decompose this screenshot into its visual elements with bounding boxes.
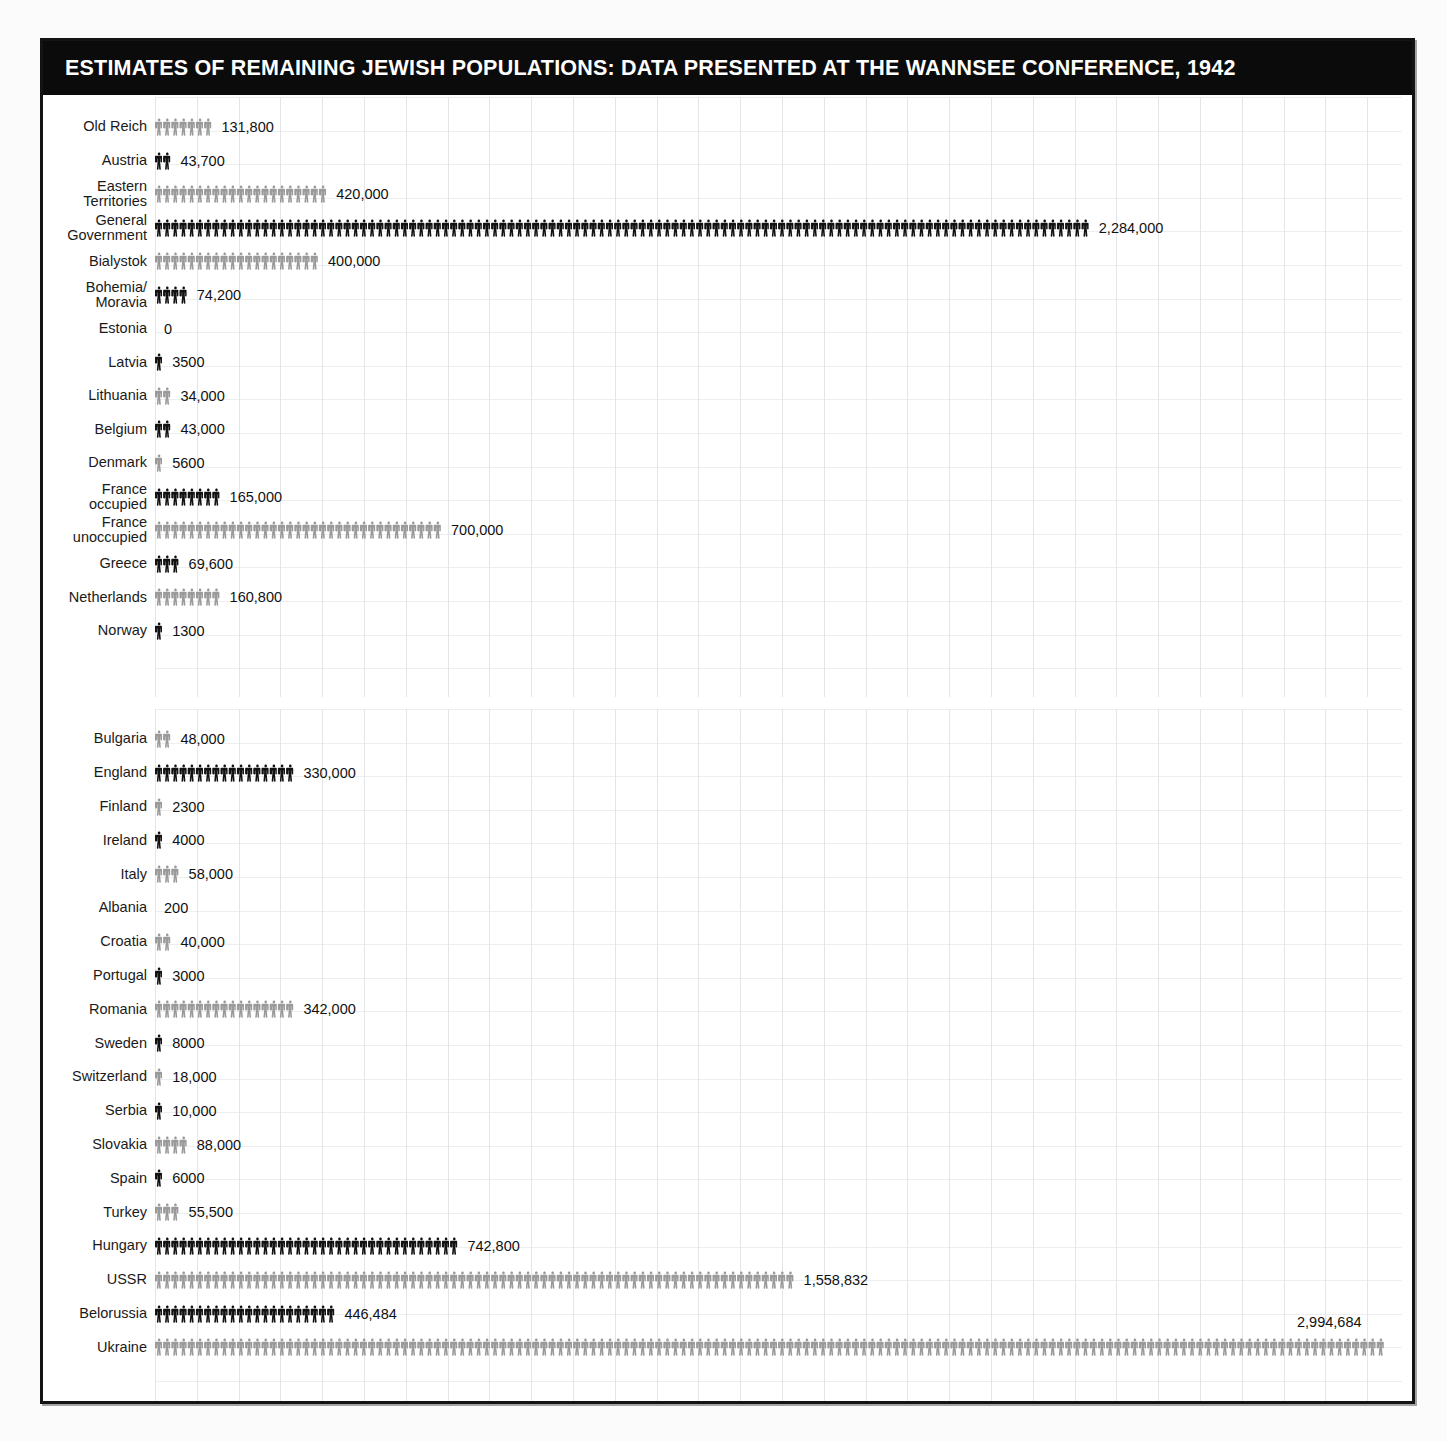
- chart-row: Norway1300: [155, 620, 1402, 642]
- row-value: 18,000: [172, 1069, 216, 1085]
- pictogram-bar: [155, 966, 163, 986]
- row-label: Bialystok: [51, 254, 155, 269]
- pictogram-bar: [155, 151, 171, 171]
- row-label: Serbia: [51, 1103, 155, 1118]
- row-label: Eastern Territories: [51, 179, 155, 209]
- chart-row: USSR1,558,832: [155, 1269, 1402, 1291]
- poster-frame: ESTIMATES OF REMAINING JEWISH POPULATION…: [40, 38, 1415, 1404]
- row-label: Finland: [51, 799, 155, 814]
- row-label: Old Reich: [51, 119, 155, 134]
- row-value: 5600: [172, 455, 204, 471]
- row-label: France unoccupied: [51, 515, 155, 545]
- row-value: 88,000: [197, 1137, 241, 1153]
- pictogram-bar: [155, 864, 180, 884]
- row-label: Denmark: [51, 455, 155, 470]
- row-label: Latvia: [51, 355, 155, 370]
- row-value: 330,000: [303, 765, 355, 781]
- plot-area-bottom: Bulgaria48,000England330,000Finland2300I…: [155, 709, 1402, 1401]
- row-list-bottom: Bulgaria48,000England330,000Finland2300I…: [155, 709, 1402, 1401]
- row-label: Ireland: [51, 833, 155, 848]
- chart-row: Sweden8000: [155, 1032, 1402, 1054]
- chart-row: Turkey55,500: [155, 1201, 1402, 1223]
- row-value: 55,500: [189, 1204, 233, 1220]
- chart-row: England330,000: [155, 762, 1402, 784]
- chart-row: Switzerland18,000: [155, 1066, 1402, 1088]
- page-title: ESTIMATES OF REMAINING JEWISH POPULATION…: [65, 56, 1236, 81]
- row-label: Ukraine: [51, 1340, 155, 1355]
- pictogram-bar: [155, 218, 1090, 238]
- pictogram-bar: [155, 520, 442, 540]
- row-value: 34,000: [180, 388, 224, 404]
- row-value: 58,000: [189, 866, 233, 882]
- chart-row: Bulgaria48,000: [155, 728, 1402, 750]
- row-value: 742,800: [467, 1238, 519, 1254]
- row-label: Romania: [51, 1002, 155, 1017]
- row-label: USSR: [51, 1272, 155, 1287]
- pictogram-bar: [155, 797, 163, 817]
- chart-row: Ireland4000: [155, 829, 1402, 851]
- pictogram-bar: [155, 830, 163, 850]
- pictogram-bar: [155, 352, 163, 372]
- pictogram-bar: [155, 487, 221, 507]
- row-label: Hungary: [51, 1238, 155, 1253]
- pictogram-bar: [155, 1202, 180, 1222]
- row-label: Belgium: [51, 422, 155, 437]
- chart-row: Hungary742,800: [155, 1235, 1402, 1257]
- chart-row: Croatia40,000: [155, 931, 1402, 953]
- pictogram-bar: [155, 251, 319, 271]
- row-label: Slovakia: [51, 1137, 155, 1152]
- pictogram-bar: [155, 587, 221, 607]
- row-label: General Government: [51, 213, 155, 243]
- chart-row: Latvia3500: [155, 351, 1402, 373]
- row-value: 1,558,832: [804, 1272, 869, 1288]
- chart-panel-top: Old Reich131,800Austria43,700Eastern Ter…: [43, 97, 1412, 697]
- pictogram-bar: [155, 763, 294, 783]
- row-label: Albania: [51, 900, 155, 915]
- chart-row: Old Reich131,800: [155, 116, 1402, 138]
- chart-row: France unoccupied700,000: [155, 519, 1402, 541]
- chart-panel-bottom: Bulgaria48,000England330,000Finland2300I…: [43, 709, 1412, 1401]
- row-value: 165,000: [230, 489, 282, 505]
- row-label: Netherlands: [51, 590, 155, 605]
- row-list-top: Old Reich131,800Austria43,700Eastern Ter…: [155, 97, 1402, 697]
- chart-row: Austria43,700: [155, 150, 1402, 172]
- row-value: 69,600: [189, 556, 233, 572]
- row-label: Norway: [51, 623, 155, 638]
- row-value: 4000: [172, 832, 204, 848]
- row-value: 1300: [172, 623, 204, 639]
- pictogram-bar: [155, 1236, 458, 1256]
- row-label: Estonia: [51, 321, 155, 336]
- pictogram-bar: [155, 184, 327, 204]
- chart-row: Estonia0: [155, 318, 1402, 340]
- row-value: 48,000: [180, 731, 224, 747]
- chart-row: Romania342,000: [155, 998, 1402, 1020]
- pictogram-bar: [155, 1304, 335, 1324]
- row-value: 446,484: [344, 1306, 396, 1322]
- chart-row: Bohemia/ Moravia74,200: [155, 284, 1402, 306]
- row-value: 2300: [172, 799, 204, 815]
- row-value: 700,000: [451, 522, 503, 538]
- chart-row: Ukraine2,994,684: [155, 1336, 1402, 1358]
- row-value: 420,000: [336, 186, 388, 202]
- pictogram-bar: [155, 117, 212, 137]
- pictogram-bar: [155, 1101, 163, 1121]
- row-label: Sweden: [51, 1036, 155, 1051]
- row-label: Turkey: [51, 1205, 155, 1220]
- chart-row: General Government2,284,000: [155, 217, 1402, 239]
- row-label: Italy: [51, 867, 155, 882]
- row-value: 43,700: [180, 153, 224, 169]
- chart-row: Greece69,600: [155, 553, 1402, 575]
- chart-row: Belgium43,000: [155, 418, 1402, 440]
- row-value: 160,800: [230, 589, 282, 605]
- pictogram-bar: [155, 729, 171, 749]
- row-value: 40,000: [180, 934, 224, 950]
- row-label: Austria: [51, 153, 155, 168]
- pictogram-bar: [155, 419, 171, 439]
- row-value: 131,800: [221, 119, 273, 135]
- chart-row: Bialystok400,000: [155, 250, 1402, 272]
- row-label: Lithuania: [51, 388, 155, 403]
- chart-row: Italy58,000: [155, 863, 1402, 885]
- title-bar: ESTIMATES OF REMAINING JEWISH POPULATION…: [43, 41, 1412, 95]
- pictogram-bar: [155, 621, 163, 641]
- row-label: France occupied: [51, 482, 155, 512]
